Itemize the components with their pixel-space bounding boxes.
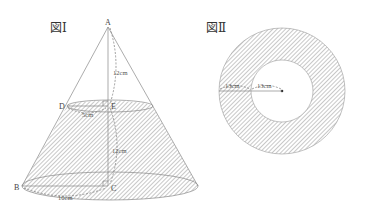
figure-1: 図Ⅰ A D E B C 12cm 12cm 5cm 10cm [14,18,198,201]
diagram-canvas: 図Ⅰ A D E B C 12cm 12cm 5cm 10cm [0,0,365,218]
point-B: B [14,183,19,192]
figure-2-title: 図Ⅱ [206,21,226,35]
point-A: A [105,18,111,27]
point-C: C [111,184,116,193]
dim-outer-band: 13cm [225,82,239,89]
dim-EC: 12cm [112,147,126,154]
dim-AE: 12cm [113,69,127,76]
figure-2: 図Ⅱ 13cm 13cm [206,21,345,154]
dim-inner-radius: 13cm [257,82,271,89]
point-E: E [111,102,116,111]
dim-DE: 5cm [82,111,93,118]
frustum-surface [22,101,198,200]
point-D: D [59,102,65,111]
dim-BC: 10cm [58,194,72,201]
figure-1-title: 図Ⅰ [50,21,67,35]
